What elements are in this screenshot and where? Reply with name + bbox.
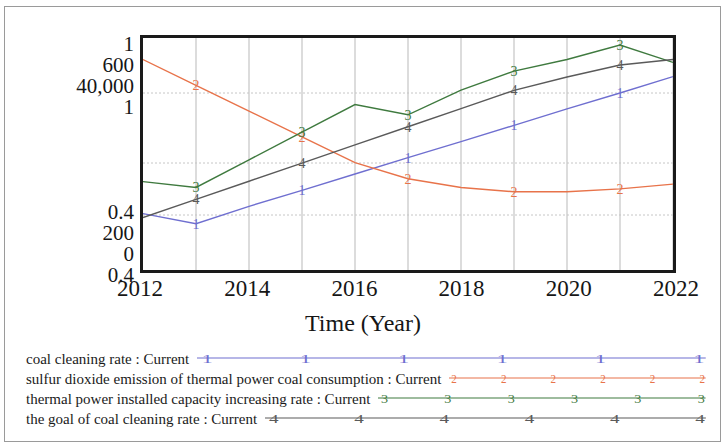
legend-point-marker: 2 (700, 371, 706, 386)
legend-line-sample-3: 333333 (378, 389, 706, 409)
series-point-marker: 4 (193, 192, 200, 207)
series-point-marker: 2 (405, 172, 412, 187)
legend-point-marker: 1 (300, 352, 311, 366)
x-axis-tick: 2016 (331, 276, 377, 302)
y-axis-upper-group: 1 600 40,000 1 (16, 34, 134, 118)
legend-point-marker: 2 (452, 371, 458, 386)
series-point-marker: 1 (299, 183, 306, 198)
chart-legend: coal cleaning rate : Current 111111 sulf… (26, 349, 706, 437)
series-point-marker: 1 (193, 217, 200, 232)
series-point-marker: 1 (617, 86, 624, 101)
y-tick-upper-0: 1 (16, 34, 134, 55)
legend-item[interactable]: coal cleaning rate : Current 111111 (26, 349, 706, 369)
legend-point-marker: 3 (571, 392, 578, 406)
plot-canvas: 11111222223333344444 (143, 38, 673, 270)
series-point-marker: 3 (617, 38, 624, 53)
series-point-marker: 3 (299, 125, 306, 140)
legend-item[interactable]: sulfur dioxide emission of thermal power… (26, 369, 706, 389)
legend-point-marker: 2 (551, 371, 557, 386)
legend-point-marker: 3 (381, 392, 388, 406)
legend-point-marker: 4 (610, 411, 620, 426)
legend-line-sample-2: 222222 (449, 369, 706, 389)
legend-point-marker: 3 (508, 392, 515, 406)
y-tick-lower-2: 0 (16, 244, 134, 265)
plot-area: 11111222223333344444 (140, 35, 676, 273)
legend-point-marker: 4 (440, 411, 450, 426)
legend-item[interactable]: the goal of coal cleaning rate : Current… (26, 409, 706, 429)
x-axis-tick: 2020 (546, 276, 592, 302)
y-tick-upper-1: 600 (16, 55, 134, 76)
legend-point-marker: 2 (650, 371, 656, 386)
legend-line-sample-1: 111111 (197, 349, 706, 369)
legend-label: thermal power installed capacity increas… (26, 391, 378, 408)
series-point-marker: 2 (511, 185, 518, 200)
y-tick-upper-3: 1 (16, 97, 134, 118)
legend-point-marker: 2 (601, 371, 607, 386)
legend-label: the goal of coal cleaning rate : Current (26, 411, 265, 428)
legend-point-marker: 4 (269, 411, 279, 426)
series-point-marker: 4 (617, 58, 624, 73)
series-point-marker: 4 (405, 120, 412, 135)
series-point-marker: 2 (193, 78, 200, 93)
y-tick-upper-2: 40,000 (16, 76, 134, 97)
legend-label: coal cleaning rate : Current (26, 351, 197, 368)
legend-point-marker: 1 (694, 352, 705, 366)
legend-point-marker: 1 (202, 352, 213, 366)
y-axis-tick-labels: 1 600 40,000 1 0.4 200 0 0.4 (16, 32, 134, 286)
legend-point-marker: 4 (525, 411, 535, 426)
chart-figure: 1 600 40,000 1 0.4 200 0 0.4 11111222223… (0, 0, 726, 447)
x-axis-title: Time (Year) (0, 310, 726, 337)
y-axis-lower-group: 0.4 200 0 0.4 (16, 202, 134, 286)
y-tick-lower-1: 200 (16, 223, 134, 244)
legend-point-marker: 1 (595, 352, 606, 366)
legend-point-marker: 4 (695, 411, 705, 426)
x-axis-tick-labels: 201220142016201820202022 (140, 276, 676, 306)
series-point-marker: 3 (511, 64, 518, 79)
x-axis-tick: 2014 (224, 276, 270, 302)
series-point-marker: 2 (617, 182, 624, 197)
x-axis-tick: 2018 (439, 276, 485, 302)
y-tick-lower-0: 0.4 (16, 202, 134, 223)
legend-point-marker: 1 (497, 352, 508, 366)
x-axis-tick: 2022 (653, 276, 699, 302)
legend-point-marker: 3 (445, 392, 452, 406)
legend-point-marker: 4 (354, 411, 364, 426)
x-axis-tick: 2012 (117, 276, 163, 302)
series-point-marker: 4 (299, 156, 306, 171)
series-point-marker: 1 (405, 151, 412, 166)
legend-point-marker: 3 (698, 392, 705, 406)
legend-point-marker: 3 (635, 392, 642, 406)
series-point-marker: 1 (511, 118, 518, 133)
legend-item[interactable]: thermal power installed capacity increas… (26, 389, 706, 409)
legend-point-marker: 1 (399, 352, 410, 366)
legend-label: sulfur dioxide emission of thermal power… (26, 371, 449, 388)
legend-line-sample-4: 444444 (265, 409, 706, 429)
legend-point-marker: 2 (501, 371, 507, 386)
series-point-marker: 4 (511, 83, 518, 98)
